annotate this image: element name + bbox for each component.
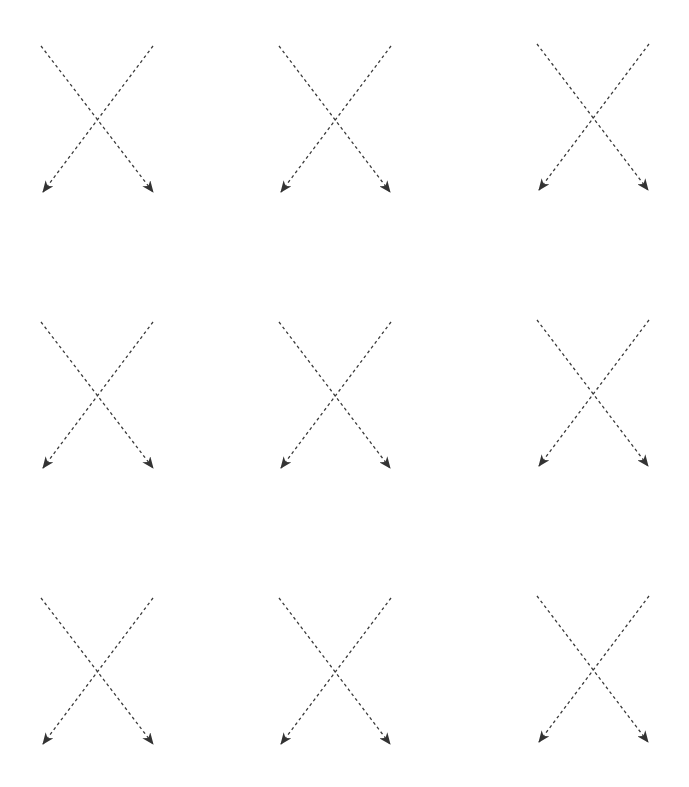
dashed-arrow-down-right-icon — [537, 320, 648, 466]
dashed-arrow-down-right-icon — [279, 598, 390, 744]
dashed-arrow-down-right-icon — [537, 596, 648, 742]
dashed-arrow-down-right-icon — [279, 46, 390, 192]
dashed-arrow-down-right-icon — [41, 46, 153, 192]
crossed-arrows-figure — [279, 322, 391, 468]
dashed-arrow-down-left-icon — [281, 46, 391, 192]
dashed-arrow-down-left-icon — [539, 44, 649, 190]
crossed-arrows-figure — [41, 322, 153, 468]
dashed-arrow-down-left-icon — [539, 320, 649, 466]
dashed-arrow-down-right-icon — [279, 322, 390, 468]
diagram-canvas — [0, 0, 689, 787]
crossed-arrows-figure — [537, 320, 649, 466]
crossed-arrows-figure — [537, 596, 649, 742]
crossed-arrows-figure — [41, 46, 153, 192]
crossed-arrows-figure — [537, 44, 649, 190]
dashed-arrow-down-right-icon — [537, 44, 648, 190]
crossed-arrows-figure — [279, 598, 391, 744]
crossed-arrows-figure — [279, 46, 391, 192]
crossed-arrows-figure — [41, 598, 153, 744]
dashed-arrow-down-left-icon — [539, 596, 649, 742]
dashed-arrow-down-right-icon — [41, 598, 153, 744]
dashed-arrow-down-left-icon — [281, 322, 391, 468]
dashed-arrow-down-left-icon — [281, 598, 391, 744]
dashed-arrow-down-right-icon — [41, 322, 153, 468]
crossed-arrows-grid — [41, 44, 649, 744]
